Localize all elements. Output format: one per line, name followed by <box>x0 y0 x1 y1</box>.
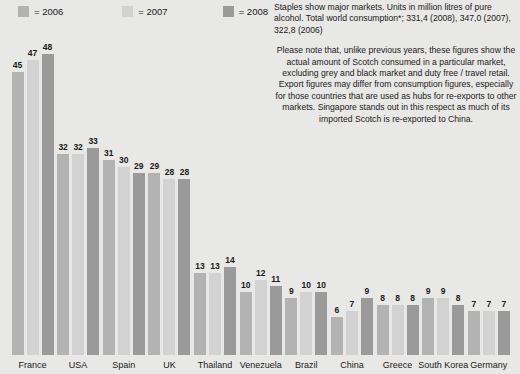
bar-value-label: 10 <box>241 281 250 290</box>
bar-group: 323233 <box>56 15 101 355</box>
bar-column: 33 <box>87 15 99 355</box>
bar-column: 29 <box>133 15 145 355</box>
bar-value-label: 47 <box>28 49 37 58</box>
bar-2007 <box>72 154 84 355</box>
bar-2007 <box>255 280 267 355</box>
bar-column: 29 <box>148 15 160 355</box>
bar-value-label: 9 <box>441 287 446 296</box>
bar-value-label: 7 <box>486 300 491 309</box>
bar-column: 32 <box>72 15 84 355</box>
bar-column: 14 <box>224 15 236 355</box>
bar-column: 8 <box>407 15 419 355</box>
bar-value-label: 9 <box>289 287 294 296</box>
bar-2007 <box>483 311 495 355</box>
bar-2007 <box>27 60 39 355</box>
bar-column: 9 <box>361 15 373 355</box>
bar-2006 <box>57 154 69 355</box>
bar-column: 13 <box>194 15 206 355</box>
bar-2007 <box>118 167 130 355</box>
bar-column: 6 <box>331 15 343 355</box>
axis-label-brazil: Brazil <box>295 360 318 370</box>
bar-value-label: 9 <box>426 287 431 296</box>
bar-value-label: 8 <box>395 294 400 303</box>
axis-label-venezuela: Venezuela <box>240 360 282 370</box>
bar-group: 91010 <box>284 15 329 355</box>
bar-column: 9 <box>422 15 434 355</box>
bar-value-label: 33 <box>88 137 97 146</box>
bar-column: 8 <box>392 15 404 355</box>
bar-value-label: 29 <box>134 162 143 171</box>
bar-2006 <box>148 173 160 355</box>
plot-area: 4547483232333130292928281313141012119101… <box>0 15 520 355</box>
bar-value-label: 7 <box>471 300 476 309</box>
bar-group: 454748 <box>10 15 55 355</box>
bar-2007 <box>163 179 175 355</box>
bar-value-label: 45 <box>13 61 22 70</box>
bar-column: 10 <box>240 15 252 355</box>
bar-value-label: 10 <box>317 281 326 290</box>
bar-group: 292828 <box>147 15 192 355</box>
bar-value-label: 11 <box>271 275 280 284</box>
bar-column: 13 <box>209 15 221 355</box>
bar-2006 <box>285 298 297 355</box>
bar-column: 10 <box>315 15 327 355</box>
axis-label-greece: Greece <box>383 360 413 370</box>
bar-2006 <box>377 305 389 355</box>
bar-value-label: 9 <box>365 287 370 296</box>
axis-label-germany: Germany <box>470 360 507 370</box>
bar-column: 31 <box>103 15 115 355</box>
bar-value-label: 32 <box>58 143 67 152</box>
bar-value-label: 8 <box>380 294 385 303</box>
axis-label-usa: USA <box>69 360 88 370</box>
bar-group: 101211 <box>238 15 283 355</box>
bar-column: 10 <box>300 15 312 355</box>
bar-value-label: 48 <box>43 43 52 52</box>
bar-column: 12 <box>255 15 267 355</box>
axis-label-thailand: Thailand <box>198 360 233 370</box>
axis-label-uk: UK <box>163 360 176 370</box>
bar-2008 <box>133 173 145 355</box>
bar-group: 131314 <box>193 15 238 355</box>
bar-group: 888 <box>375 15 420 355</box>
bar-column: 9 <box>437 15 449 355</box>
bar-2008 <box>452 305 464 355</box>
axis-label-france: France <box>18 360 46 370</box>
bar-2007 <box>300 292 312 355</box>
bar-group: 998 <box>421 15 466 355</box>
bar-column: 7 <box>468 15 480 355</box>
bar-column: 7 <box>498 15 510 355</box>
bar-column: 9 <box>285 15 297 355</box>
bar-value-label: 8 <box>410 294 415 303</box>
bar-value-label: 28 <box>180 168 189 177</box>
bar-value-label: 14 <box>225 256 234 265</box>
bar-column: 8 <box>377 15 389 355</box>
bar-2007 <box>209 273 221 355</box>
axis-label-china: China <box>340 360 364 370</box>
bar-2008 <box>270 286 282 355</box>
bar-2008 <box>498 311 510 355</box>
bar-value-label: 8 <box>456 294 461 303</box>
axis-label-south-korea: South Korea <box>418 360 468 370</box>
bar-2006 <box>240 292 252 355</box>
bar-2008 <box>224 267 236 355</box>
bar-value-label: 29 <box>150 162 159 171</box>
bar-value-label: 31 <box>104 149 113 158</box>
bar-column: 28 <box>163 15 175 355</box>
bar-value-label: 13 <box>195 262 204 271</box>
bar-2008 <box>42 54 54 355</box>
bar-value-label: 7 <box>350 300 355 309</box>
bar-column: 7 <box>483 15 495 355</box>
bar-column: 28 <box>178 15 190 355</box>
bar-value-label: 13 <box>210 262 219 271</box>
bar-column: 47 <box>27 15 39 355</box>
bar-value-label: 6 <box>335 306 340 315</box>
bar-2008 <box>87 148 99 355</box>
bar-2008 <box>315 292 327 355</box>
bar-group: 679 <box>329 15 374 355</box>
bar-value-label: 32 <box>73 143 82 152</box>
bar-column: 30 <box>118 15 130 355</box>
bar-2007 <box>437 298 449 355</box>
bar-column: 11 <box>270 15 282 355</box>
bar-column: 7 <box>346 15 358 355</box>
x-axis-labels: FranceUSASpainUKThailandVenezuelaBrazilC… <box>0 355 520 374</box>
